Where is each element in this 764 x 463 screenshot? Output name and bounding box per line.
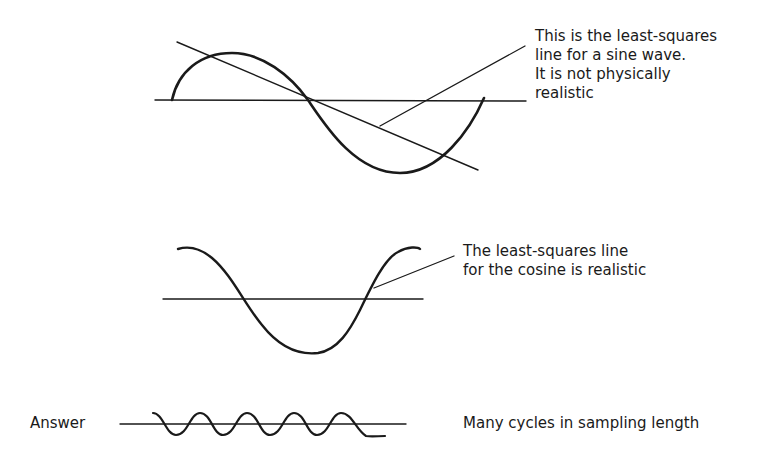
answer-label: Answer bbox=[30, 414, 85, 433]
answer-annotation: Many cycles in sampling length bbox=[463, 414, 699, 433]
sine-annotation-line-3: It is not physically bbox=[535, 65, 717, 84]
sine-annotation-line-2: line for a sine wave. bbox=[535, 46, 717, 65]
cosine-annotation: The least-squares line for the cosine is… bbox=[463, 242, 646, 280]
sine-least-squares-line bbox=[177, 42, 478, 170]
cosine-wave bbox=[178, 247, 420, 353]
cosine-annotation-line-2: for the cosine is realistic bbox=[463, 261, 646, 280]
sine-wave bbox=[172, 53, 484, 173]
answer-wave bbox=[153, 413, 385, 436]
sine-annotation-line-4: realistic bbox=[535, 84, 717, 103]
cosine-annotation-line-1: The least-squares line bbox=[463, 242, 646, 261]
sine-annotation-line-1: This is the least-squares bbox=[535, 27, 717, 46]
sine-leader-line bbox=[380, 46, 525, 126]
sine-baseline bbox=[155, 100, 526, 101]
sine-annotation: This is the least-squares line for a sin… bbox=[535, 27, 717, 103]
cosine-leader-line bbox=[374, 256, 454, 288]
